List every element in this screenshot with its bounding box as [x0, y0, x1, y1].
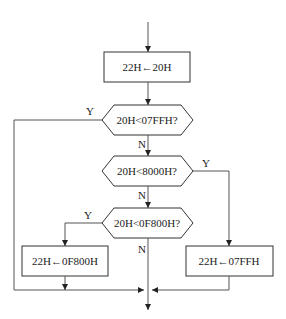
arrowhead	[138, 287, 144, 293]
decision-1-text: 20H<07FFH?	[116, 114, 177, 126]
process-start-text: 22H←20H	[123, 61, 172, 73]
arrowhead	[62, 240, 68, 246]
process-right-connector	[152, 276, 229, 290]
decision-2-no-label: N	[138, 189, 146, 201]
arrowhead	[145, 150, 151, 156]
decision-1-yes-label: Y	[86, 105, 94, 117]
decision-2-yes-label: Y	[202, 157, 210, 169]
arrowhead	[62, 284, 68, 290]
decision-3-text: 20H<0F800H?	[114, 217, 180, 229]
decision-3-yes-connector	[65, 223, 102, 246]
decision-2-yes-connector	[193, 171, 229, 246]
decision-1-no-label: N	[138, 138, 146, 150]
process-right-text: 22H←07FFH	[198, 255, 259, 267]
decision-3-yes-label: Y	[84, 209, 92, 221]
process-left-text: 22H←0F800H	[32, 255, 98, 267]
flowchart: 22H←20H 20H<07FFH? Y N 20H<8000H? Y N 20…	[0, 0, 286, 319]
arrowhead	[152, 287, 158, 293]
arrowhead	[145, 99, 151, 105]
arrowhead	[145, 202, 151, 208]
exit-arrowhead	[145, 304, 151, 310]
arrowhead	[145, 46, 151, 52]
decision-2-text: 20H<8000H?	[117, 165, 177, 177]
decision-3-no-label: N	[138, 243, 146, 255]
arrowhead	[226, 240, 232, 246]
